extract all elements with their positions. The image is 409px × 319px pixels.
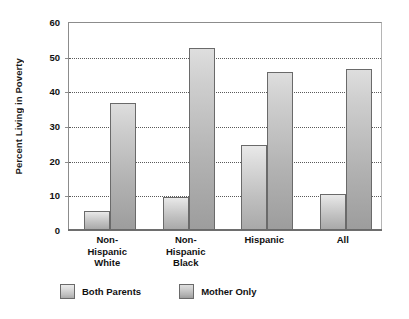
x-axis-label-line: Non- — [147, 234, 226, 246]
bar-mother-only — [189, 48, 215, 230]
legend-item: Mother Only — [179, 284, 256, 299]
y-axis-tick-label: 10 — [49, 190, 60, 201]
legend-item: Both Parents — [60, 284, 141, 299]
bar-both-parents — [84, 211, 110, 230]
legend-label: Both Parents — [82, 286, 141, 297]
bar-mother-only — [346, 69, 372, 230]
x-axis-category-label: Non-HispanicBlack — [147, 234, 226, 269]
x-axis-category-label: Hispanic — [225, 234, 304, 246]
bar-mother-only — [110, 103, 136, 230]
y-axis-tickmark — [65, 92, 69, 93]
x-axis-label-line: Hispanic — [147, 246, 226, 258]
poverty-bar-chart: Percent Living in Poverty 0102030405060 … — [0, 0, 409, 319]
bar-both-parents — [241, 145, 267, 230]
legend-label: Mother Only — [201, 286, 256, 297]
x-axis-label-line: White — [68, 257, 147, 269]
y-axis-tick-label: 50 — [49, 51, 60, 62]
y-axis-tickmark — [65, 127, 69, 128]
y-axis-title-text: Percent Living in Poverty — [13, 58, 24, 175]
x-axis-label-line: Black — [147, 257, 226, 269]
legend-swatch-icon — [60, 284, 75, 299]
bar-mother-only — [267, 72, 293, 230]
chart-legend: Both ParentsMother Only — [60, 281, 257, 301]
y-axis-tickmark — [65, 162, 69, 163]
x-axis-label-line: All — [304, 234, 383, 246]
gridline — [69, 92, 381, 93]
x-axis-category-label: All — [304, 234, 383, 246]
y-axis-title: Percent Living in Poverty — [0, 0, 36, 232]
x-axis-label-line: Non- — [68, 234, 147, 246]
y-axis-tick-label: 40 — [49, 86, 60, 97]
x-axis-category-label: Non-HispanicWhite — [68, 234, 147, 269]
y-axis-tick-labels: 0102030405060 — [36, 22, 64, 230]
bar-both-parents — [163, 197, 189, 230]
x-axis-label-line: Hispanic — [225, 234, 304, 246]
x-axis-label-line: Hispanic — [68, 246, 147, 258]
y-axis-tick-label: 20 — [49, 155, 60, 166]
y-axis-tickmark — [65, 58, 69, 59]
y-axis-tick-label: 30 — [49, 121, 60, 132]
y-axis-tick-label: 60 — [49, 17, 60, 28]
y-axis-tickmark — [65, 196, 69, 197]
gridline — [69, 58, 381, 59]
y-axis-tick-label: 0 — [55, 225, 60, 236]
x-axis-category-labels: Non-HispanicWhiteNon-HispanicBlackHispan… — [68, 234, 382, 278]
plot-area — [68, 22, 382, 230]
bar-both-parents — [320, 194, 346, 230]
legend-swatch-icon — [179, 284, 194, 299]
